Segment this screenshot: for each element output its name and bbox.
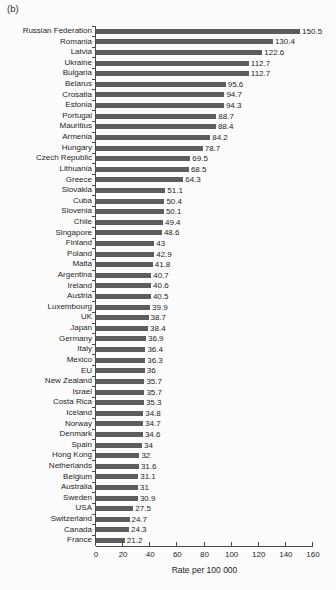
plot-cell: 112.7 bbox=[95, 68, 336, 79]
plot-cell: 94.7 bbox=[95, 90, 336, 101]
bar bbox=[96, 241, 154, 246]
value-label: 50.4 bbox=[166, 197, 182, 206]
plot-cell: 40.6 bbox=[95, 281, 336, 292]
bar bbox=[96, 379, 144, 384]
bar-row: Greece 64.3 bbox=[0, 175, 336, 186]
plot-cell: 39.9 bbox=[95, 302, 336, 313]
category-label: Luxembourg bbox=[0, 302, 95, 313]
category-label: Spain bbox=[0, 440, 95, 451]
value-label: 31 bbox=[140, 483, 149, 492]
bar-row: Iceland 34.8 bbox=[0, 408, 336, 419]
value-label: 30.9 bbox=[140, 494, 156, 503]
plot-cell: 35.3 bbox=[95, 397, 336, 408]
bar bbox=[96, 283, 151, 288]
bar bbox=[96, 432, 143, 437]
x-tick bbox=[312, 542, 313, 546]
bar bbox=[96, 443, 142, 448]
bar-row: Estonia 94.3 bbox=[0, 100, 336, 111]
bar-row: Australia 31 bbox=[0, 482, 336, 493]
bar-row: Mauritius 88.4 bbox=[0, 121, 336, 132]
plot-cell: 84.2 bbox=[95, 132, 336, 143]
bar bbox=[96, 453, 139, 458]
value-label: 36.9 bbox=[148, 334, 164, 343]
bar-row: New Zealand 35.7 bbox=[0, 376, 336, 387]
value-label: 112.7 bbox=[251, 59, 270, 68]
category-label: Netherlands bbox=[0, 461, 95, 472]
plot-cell: 36 bbox=[95, 366, 336, 377]
value-label: 35.7 bbox=[146, 377, 162, 386]
value-label: 95.6 bbox=[228, 80, 244, 89]
value-label: 78.7 bbox=[205, 144, 221, 153]
category-label: Slovenia bbox=[0, 206, 95, 217]
plot-cell: 34 bbox=[95, 440, 336, 451]
plot-cell: 36.3 bbox=[95, 355, 336, 366]
bar bbox=[96, 103, 224, 108]
category-label: Sweden bbox=[0, 493, 95, 504]
bar bbox=[96, 39, 273, 44]
bar-row: Armenia 84.2 bbox=[0, 132, 336, 143]
bar bbox=[96, 336, 146, 341]
plot-cell: 34.7 bbox=[95, 419, 336, 430]
category-label: Mauritius bbox=[0, 121, 95, 132]
category-label: Latvia bbox=[0, 47, 95, 58]
category-label: Estonia bbox=[0, 100, 95, 111]
bar-row: Poland 42.9 bbox=[0, 249, 336, 260]
value-label: 48.6 bbox=[164, 228, 180, 237]
plot-cell: 31.6 bbox=[95, 461, 336, 472]
value-label: 31.1 bbox=[140, 472, 156, 481]
figure: (b) Russian Federation 150.5 Romania 130… bbox=[0, 0, 336, 590]
bar-row: Chile 49.4 bbox=[0, 217, 336, 228]
plot-cell: 40.7 bbox=[95, 270, 336, 281]
bar bbox=[96, 82, 226, 87]
bar bbox=[96, 209, 164, 214]
bar bbox=[96, 464, 139, 469]
bar bbox=[96, 496, 138, 501]
category-label: Israel bbox=[0, 387, 95, 398]
value-label: 21.2 bbox=[127, 536, 143, 545]
category-label: Hong Kong bbox=[0, 450, 95, 461]
plot-cell: 130.4 bbox=[95, 37, 336, 48]
category-label: EU bbox=[0, 366, 95, 377]
bar-row: Spain 34 bbox=[0, 440, 336, 451]
x-tick bbox=[176, 542, 177, 546]
bar bbox=[96, 29, 300, 34]
plot-cell: 42.9 bbox=[95, 249, 336, 260]
category-label: Japan bbox=[0, 323, 95, 334]
bar bbox=[96, 92, 224, 97]
value-label: 27.5 bbox=[135, 504, 151, 513]
category-label: UK bbox=[0, 312, 95, 323]
value-label: 88.4 bbox=[218, 122, 234, 131]
category-label: Singapore bbox=[0, 228, 95, 239]
plot-cell: 35.7 bbox=[95, 376, 336, 387]
value-label: 88.7 bbox=[218, 112, 234, 121]
category-label: Ukraine bbox=[0, 58, 95, 69]
category-label: Canada bbox=[0, 525, 95, 536]
bar-row: Bulgaria 112.7 bbox=[0, 68, 336, 79]
bar bbox=[96, 167, 189, 172]
value-label: 36.4 bbox=[147, 345, 163, 354]
x-tick-label: 140 bbox=[273, 550, 299, 559]
bar bbox=[96, 315, 149, 320]
bar-row: Belgium 31.1 bbox=[0, 472, 336, 483]
x-tick-label: 120 bbox=[246, 550, 272, 559]
bar-row: Mexico 36.3 bbox=[0, 355, 336, 366]
bar-rows: Russian Federation 150.5 Romania 130.4 L… bbox=[0, 26, 336, 546]
category-label: Costa Rica bbox=[0, 397, 95, 408]
plot-cell: 51.1 bbox=[95, 185, 336, 196]
bar-row: Netherlands 31.6 bbox=[0, 461, 336, 472]
bar bbox=[96, 400, 144, 405]
value-label: 69.5 bbox=[192, 154, 208, 163]
bar-row: Malta 41.8 bbox=[0, 259, 336, 270]
value-label: 42.9 bbox=[156, 250, 172, 259]
x-tick bbox=[231, 542, 232, 546]
x-tick bbox=[149, 542, 150, 546]
value-label: 34.8 bbox=[145, 409, 161, 418]
bar bbox=[96, 188, 165, 193]
plot-cell: 95.6 bbox=[95, 79, 336, 90]
bar-row: UK 38.7 bbox=[0, 312, 336, 323]
bar bbox=[96, 326, 148, 331]
category-label: Ireland bbox=[0, 281, 95, 292]
bar-row: Russian Federation 150.5 bbox=[0, 26, 336, 37]
category-label: Chile bbox=[0, 217, 95, 228]
x-axis-title: Rate per 100 000 bbox=[96, 565, 313, 575]
